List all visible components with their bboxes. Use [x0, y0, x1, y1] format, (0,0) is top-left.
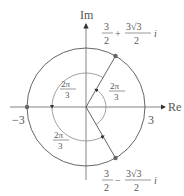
svg-text:i: i [154, 175, 157, 186]
svg-text:3: 3 [114, 92, 119, 102]
point-label-lower: 3 2 − 3√3 2 i [102, 168, 157, 193]
real-axis-label: Re [168, 100, 181, 114]
angle-label-upper-left: 2π 3 [60, 79, 76, 100]
svg-text:3√3: 3√3 [126, 168, 142, 179]
svg-text:2: 2 [134, 35, 139, 46]
svg-text:3: 3 [104, 168, 109, 179]
svg-text:2: 2 [104, 35, 109, 46]
svg-text:+: + [115, 28, 121, 39]
svg-text:3: 3 [58, 141, 63, 151]
point-neg3 [25, 105, 29, 109]
svg-text:3√3: 3√3 [126, 21, 142, 32]
svg-text:2π: 2π [110, 81, 120, 91]
svg-text:−: − [115, 175, 121, 186]
point-lower [113, 156, 117, 160]
svg-text:2π: 2π [54, 130, 64, 140]
svg-text:2: 2 [104, 182, 109, 193]
angle-label-inner: 2π 3 [109, 81, 125, 102]
svg-text:i: i [154, 28, 157, 39]
imag-axis-label: Im [80, 8, 94, 22]
angle-label-bottom: 2π 3 [53, 130, 69, 151]
point-label-upper: 3 2 + 3√3 2 i [102, 21, 157, 46]
tick-label-3: 3 [148, 113, 154, 127]
svg-text:3: 3 [104, 21, 109, 32]
tick-label-neg3: −3 [12, 113, 25, 127]
ray-lower [86, 107, 116, 158]
svg-text:2π: 2π [61, 79, 71, 89]
complex-plane-diagram: Im Re −3 3 2π 3 2π 3 2π 3 3 2 + 3√3 2 i … [0, 0, 184, 196]
point-upper [113, 54, 117, 58]
svg-text:3: 3 [65, 90, 70, 100]
svg-text:2: 2 [134, 182, 139, 193]
